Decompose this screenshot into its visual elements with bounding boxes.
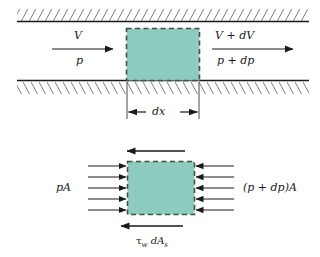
dx-dimension-label: dx — [152, 106, 165, 117]
inlet-velocity-label: V — [74, 30, 82, 41]
wall-shear-force-label: τw dAs — [136, 236, 168, 249]
upper-wall-hatching — [17, 9, 309, 21]
right-pressure-arrows — [196, 166, 234, 210]
lower-wall-hatching — [17, 82, 309, 94]
left-pressure-force-label: pA — [56, 182, 71, 193]
outlet-pressure-label: p + dp — [217, 55, 254, 66]
right-pressure-force-label: (p + dp)A — [243, 182, 297, 193]
left-pressure-arrows — [88, 166, 126, 210]
dA-subscript-s: s — [164, 241, 168, 249]
fluid-mechanics-diagram: V p V + dV p + dp dx pA (p + dp)A τw dAs — [0, 0, 320, 257]
diagram-canvas — [0, 0, 320, 257]
outlet-velocity-label: V + dV — [215, 30, 254, 41]
dA-symbol: dA — [148, 235, 165, 246]
inlet-pressure-label: p — [76, 55, 83, 66]
fluid-element-bottom — [128, 162, 195, 215]
fluid-element-top — [127, 29, 200, 81]
